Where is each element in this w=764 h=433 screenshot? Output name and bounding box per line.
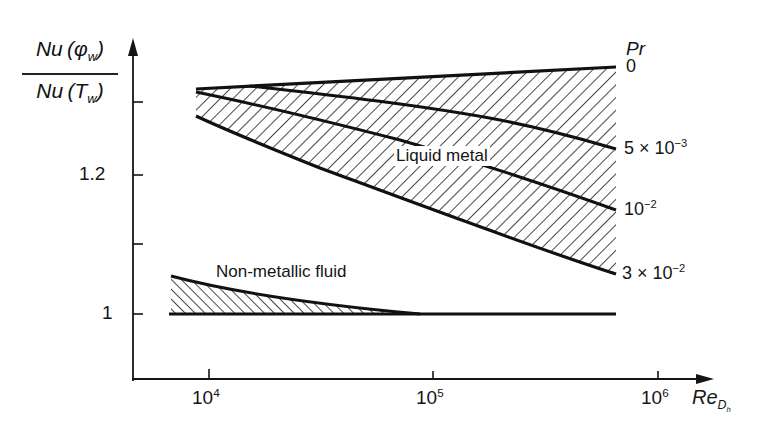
pr-label-3e-2: 3 × 10−2 bbox=[622, 262, 685, 284]
x-axis-arrow-icon bbox=[696, 374, 714, 384]
region-label-liquid-metal: Liquid metal bbox=[394, 146, 490, 166]
y-axis-label: Nu (φw) Nu (Tw) bbox=[22, 36, 118, 112]
y-axis bbox=[128, 38, 143, 381]
y-label-numerator: Nu (φw) bbox=[22, 36, 118, 70]
x-axis bbox=[132, 369, 714, 384]
liquid-metal-region bbox=[196, 67, 616, 274]
pr-label-5e-3: 5 × 10−3 bbox=[624, 137, 687, 159]
fraction-bar bbox=[22, 73, 118, 75]
x-tick-label-1e6: 106 bbox=[641, 386, 669, 409]
x-tick-label-1e4: 104 bbox=[192, 386, 220, 409]
y-axis-arrow-icon bbox=[128, 38, 138, 56]
y-tick-label-1-2: 1.2 bbox=[79, 163, 105, 185]
pr-label-0: 0 bbox=[626, 56, 636, 77]
region-label-non-metallic: Non-metallic fluid bbox=[214, 262, 348, 282]
x-axis-label: ReDh bbox=[692, 386, 731, 414]
y-tick-label-1: 1 bbox=[102, 302, 113, 324]
x-tick-label-1e5: 105 bbox=[416, 386, 444, 409]
y-label-denominator: Nu (Tw) bbox=[22, 78, 118, 112]
pr-label-1e-2: 10−2 bbox=[624, 198, 657, 220]
